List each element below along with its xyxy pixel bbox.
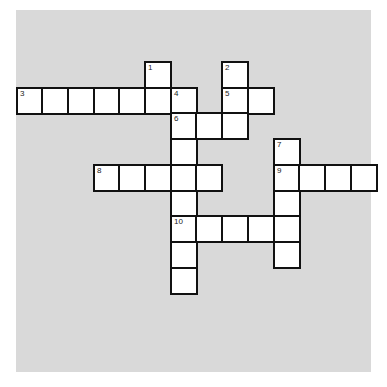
cell-letter-input[interactable] <box>197 114 221 138</box>
crossword-cell[interactable] <box>93 87 121 115</box>
crossword-cell[interactable]: 8 <box>93 164 121 192</box>
crossword-cell[interactable] <box>195 215 223 243</box>
crossword-cell[interactable]: 7 <box>273 138 301 166</box>
crossword-cell[interactable] <box>247 215 275 243</box>
cell-letter-input[interactable] <box>223 114 247 138</box>
cell-letter-input[interactable] <box>172 269 196 293</box>
cell-letter-input[interactable] <box>172 114 196 138</box>
cell-letter-input[interactable] <box>146 166 170 190</box>
crossword-cell[interactable] <box>195 164 223 192</box>
cell-letter-input[interactable] <box>172 243 196 267</box>
crossword-cell[interactable] <box>273 190 301 218</box>
cell-letter-input[interactable] <box>275 166 299 190</box>
cell-letter-input[interactable] <box>120 89 144 113</box>
cell-letter-input[interactable] <box>95 166 119 190</box>
cell-letter-input[interactable] <box>275 140 299 164</box>
crossword-cell[interactable] <box>324 164 352 192</box>
crossword-cell[interactable] <box>221 112 249 140</box>
crossword-cell[interactable] <box>195 112 223 140</box>
cell-letter-input[interactable] <box>223 217 247 241</box>
cell-letter-input[interactable] <box>249 217 273 241</box>
cell-letter-input[interactable] <box>172 192 196 216</box>
cell-letter-input[interactable] <box>249 89 273 113</box>
crossword-cell[interactable] <box>247 87 275 115</box>
crossword-cell[interactable] <box>170 164 198 192</box>
crossword-cell[interactable]: 3 <box>16 87 44 115</box>
cell-letter-input[interactable] <box>197 217 221 241</box>
cell-letter-input[interactable] <box>172 89 196 113</box>
cell-letter-input[interactable] <box>172 140 196 164</box>
cell-letter-input[interactable] <box>69 89 93 113</box>
cell-letter-input[interactable] <box>43 89 67 113</box>
crossword-cell[interactable] <box>350 164 378 192</box>
crossword-cell[interactable] <box>144 164 172 192</box>
crossword-cell[interactable]: 6 <box>170 112 198 140</box>
cell-letter-input[interactable] <box>275 217 299 241</box>
cell-letter-input[interactable] <box>223 63 247 87</box>
cell-letter-input[interactable] <box>352 166 376 190</box>
crossword-cell[interactable] <box>298 164 326 192</box>
crossword-cell[interactable] <box>221 215 249 243</box>
crossword-cell[interactable] <box>67 87 95 115</box>
crossword-cell[interactable]: 10 <box>170 215 198 243</box>
crossword-cell[interactable] <box>170 138 198 166</box>
crossword-cell[interactable]: 9 <box>273 164 301 192</box>
cell-letter-input[interactable] <box>18 89 42 113</box>
crossword-cell[interactable]: 4 <box>170 87 198 115</box>
crossword-cell[interactable] <box>118 164 146 192</box>
crossword-cell[interactable]: 2 <box>221 61 249 89</box>
cell-letter-input[interactable] <box>95 89 119 113</box>
cell-letter-input[interactable] <box>146 63 170 87</box>
crossword-cell[interactable] <box>41 87 69 115</box>
crossword-cell[interactable] <box>170 190 198 218</box>
crossword-cell[interactable] <box>118 87 146 115</box>
cell-letter-input[interactable] <box>275 192 299 216</box>
crossword-cell[interactable] <box>273 241 301 269</box>
cell-letter-input[interactable] <box>120 166 144 190</box>
crossword-cell[interactable]: 5 <box>221 87 249 115</box>
cell-letter-input[interactable] <box>146 89 170 113</box>
cell-letter-input[interactable] <box>275 243 299 267</box>
crossword-cell[interactable]: 1 <box>144 61 172 89</box>
crossword-cell[interactable] <box>273 215 301 243</box>
crossword-cell[interactable] <box>170 267 198 295</box>
cell-letter-input[interactable] <box>172 166 196 190</box>
cell-letter-input[interactable] <box>300 166 324 190</box>
cell-letter-input[interactable] <box>197 166 221 190</box>
cell-letter-input[interactable] <box>172 217 196 241</box>
cell-letter-input[interactable] <box>326 166 350 190</box>
crossword-cell[interactable] <box>170 241 198 269</box>
crossword-cell[interactable] <box>144 87 172 115</box>
cell-letter-input[interactable] <box>223 89 247 113</box>
